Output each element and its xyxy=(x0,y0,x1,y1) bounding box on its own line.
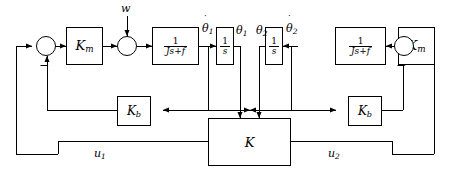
plant-right-numerator: 1 xyxy=(349,37,372,46)
control-block-diagram: Km 1 Js+f 1 s 1 s 1 Js+f Km Kb Kb K xyxy=(0,0,450,177)
block-kb-left: Kb xyxy=(117,96,151,126)
sum-junction-right-input xyxy=(394,36,414,56)
block-km-left-label: Km xyxy=(75,38,93,54)
integrator-left-numerator: 1 xyxy=(220,37,230,46)
signal-label-theta-2: θ2 xyxy=(256,24,267,38)
signal-label-u1: u1 xyxy=(94,147,106,161)
block-controller-k: K xyxy=(208,118,291,166)
block-plant-right: 1 Js+f xyxy=(335,27,386,65)
signal-label-u2: u2 xyxy=(328,147,340,161)
block-km-left: Km xyxy=(66,27,103,65)
plant-left-fraction: 1 Js+f xyxy=(164,37,187,56)
block-kb-right-label: Kb xyxy=(358,104,372,119)
controller-k-label: K xyxy=(245,135,255,150)
signal-label-theta-dot-1: ˙θ1 xyxy=(202,22,213,36)
block-kb-right: Kb xyxy=(348,96,382,126)
integrator-right-fraction: 1 s xyxy=(269,37,279,56)
integrator-left-fraction: 1 s xyxy=(220,37,230,56)
plant-right-denominator: Js+f xyxy=(349,46,372,56)
block-integrator-right: 1 s xyxy=(265,27,283,65)
minus-sign-left: − xyxy=(39,58,49,72)
block-integrator-left: 1 s xyxy=(216,27,234,65)
block-kb-left-label: Kb xyxy=(127,104,141,119)
integrator-left-denominator: s xyxy=(220,46,230,56)
integrator-right-denominator: s xyxy=(269,46,279,56)
signal-label-theta-1: θ1 xyxy=(236,24,247,38)
plant-right-fraction: 1 Js+f xyxy=(349,37,372,56)
plant-left-denominator: Js+f xyxy=(164,46,187,56)
block-plant-left: 1 Js+f xyxy=(152,27,199,65)
sum-junction-left-input xyxy=(36,36,56,56)
plant-left-numerator: 1 xyxy=(164,37,187,46)
sum-junction-disturbance xyxy=(117,36,137,56)
signal-label-w: w xyxy=(121,2,130,15)
signal-label-theta-dot-2: ˙θ2 xyxy=(286,22,297,36)
integrator-right-numerator: 1 xyxy=(269,37,279,46)
minus-sign-right: − xyxy=(396,58,406,72)
